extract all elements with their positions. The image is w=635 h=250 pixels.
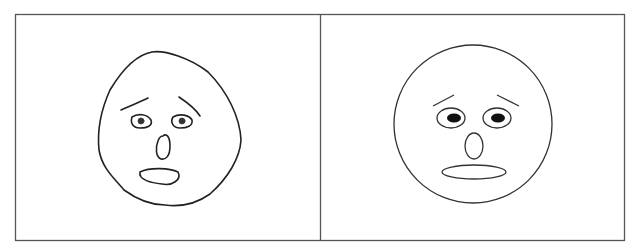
mouth-open: [140, 169, 179, 185]
mouth: [442, 165, 506, 179]
left-panel-hand-drawn-face: [98, 52, 241, 206]
right-eyebrow: [179, 97, 200, 116]
left-pupil: [447, 114, 461, 123]
right-pupil: [179, 118, 185, 124]
left-pupil: [138, 118, 144, 124]
figure-frame: [0, 0, 635, 250]
left-eyebrow: [121, 98, 148, 110]
left-eyebrow: [433, 95, 454, 106]
right-eyebrow: [497, 95, 519, 106]
head-outline-irregular: [98, 52, 241, 206]
nose: [465, 133, 483, 159]
right-pupil: [491, 114, 505, 123]
nose: [156, 135, 170, 159]
right-panel-schematic-face: [394, 45, 552, 203]
